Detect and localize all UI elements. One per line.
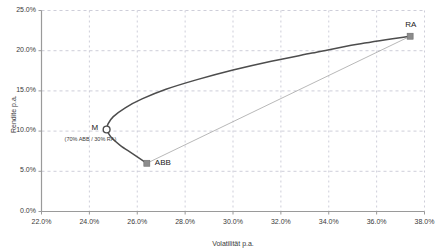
chart-canvas	[0, 0, 437, 252]
y-tick-label: 25.0%	[2, 6, 36, 13]
x-tick-label: 38.0%	[411, 218, 437, 225]
marker-label-m: M	[92, 123, 99, 132]
x-axis-title: Volatilität p.a.	[203, 240, 263, 247]
y-tick-label: 5.0%	[2, 166, 36, 173]
x-tick-label: 36.0%	[363, 218, 391, 225]
x-tick-label: 26.0%	[123, 218, 151, 225]
x-tick-label: 28.0%	[171, 218, 199, 225]
x-tick-label: 22.0%	[28, 218, 56, 225]
y-tick-label: 15.0%	[2, 86, 36, 93]
y-axis-title: Rendite p.a.	[10, 95, 17, 133]
y-tick-label: 20.0%	[2, 46, 36, 53]
axis-ticks	[39, 11, 425, 215]
marker-annotation-m: (70% ABB / 30% RA)	[65, 136, 117, 142]
x-tick-label: 24.0%	[75, 218, 103, 225]
data-series-layer	[107, 36, 411, 163]
y-tick-label: 10.0%	[2, 126, 36, 133]
marker-label-abb: ABB	[155, 158, 171, 167]
marker-label-ra: RA	[405, 20, 416, 29]
data-markers-layer	[103, 33, 413, 166]
gridlines	[42, 11, 425, 212]
x-tick-label: 30.0%	[219, 218, 247, 225]
x-tick-label: 32.0%	[267, 218, 295, 225]
efficient-frontier-chart: 22.0%24.0%26.0%28.0%30.0%32.0%34.0%36.0%…	[0, 0, 437, 252]
y-tick-label: 0.0%	[2, 207, 36, 214]
x-tick-label: 34.0%	[315, 218, 343, 225]
